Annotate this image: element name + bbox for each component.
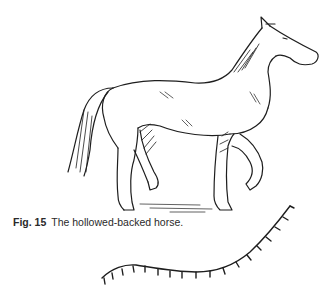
hollow-spine-diagram [0,0,331,293]
